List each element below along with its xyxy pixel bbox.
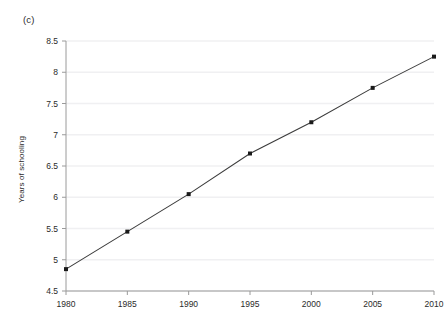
y-axis-tick-label: 8 [32,67,58,77]
x-axis-tick-label: 1985 [107,299,147,309]
y-axis-tick-label: 6.5 [32,161,58,171]
y-axis-tick-label: 7 [32,130,58,140]
y-axis-tick-label: 7.5 [32,99,58,109]
data-point-marker [64,267,68,271]
y-axis-tick-label: 5.5 [32,224,58,234]
data-point-marker [309,120,313,124]
data-point-marker [187,192,191,196]
data-point-marker [371,86,375,90]
y-axis-tick-label: 4.5 [32,286,58,296]
x-axis-tick-label: 1980 [46,299,86,309]
x-axis-tick-label: 1995 [230,299,270,309]
plot-area: 4.555.566.577.588.5198019851990199520002… [0,0,445,324]
x-axis-tick-label: 1990 [169,299,209,309]
data-point-marker [125,230,129,234]
x-axis-tick-label: 2000 [291,299,331,309]
figure-panel-c: (c) Years of schooling 4.555.566.577.588… [0,0,445,324]
y-axis-tick-label: 6 [32,192,58,202]
line-chart-svg [0,0,445,324]
y-axis-tick-label: 8.5 [32,36,58,46]
x-axis-tick-label: 2005 [353,299,393,309]
data-series-line [66,57,434,270]
data-point-marker [248,152,252,156]
x-axis-tick-label: 2010 [414,299,445,309]
y-axis-tick-label: 5 [32,255,58,265]
data-point-marker [432,55,436,59]
